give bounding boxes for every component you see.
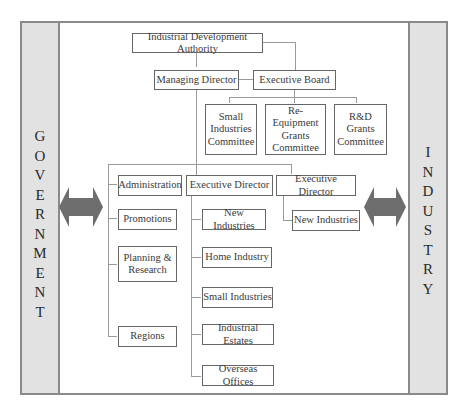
connector (191, 334, 201, 335)
connector (238, 79, 254, 80)
connector (191, 219, 201, 220)
connector (108, 218, 117, 219)
connector (294, 97, 295, 103)
letter: O (22, 147, 58, 167)
connector (191, 376, 201, 377)
connector (108, 264, 117, 265)
regions-box: Regions (118, 326, 177, 347)
new-industries-2-box: New Industries (292, 210, 360, 231)
rd-grants-committee-box: R&D Grants Committee (334, 104, 387, 155)
re-equipment-grants-committee-box: Re-Equipment Grants Committee (265, 104, 326, 155)
letter: M (22, 244, 58, 264)
letter: V (22, 166, 58, 186)
connector (191, 195, 192, 377)
planning-research-box: Planning & Research (118, 246, 177, 282)
letter: G (22, 127, 58, 147)
letter: T (410, 241, 446, 261)
industrial-estates-box: Industrial Estates (202, 324, 274, 345)
industry-label: I N D U S T R Y (410, 143, 446, 299)
connector (108, 164, 109, 336)
new-industries-box: New Industries (202, 209, 266, 230)
government-label: G O V E R N M E N T (22, 127, 58, 322)
connector (108, 184, 117, 185)
administration-box: Administration (118, 175, 182, 196)
letter: R (22, 205, 58, 225)
connector (356, 97, 357, 103)
letter: I (410, 143, 446, 163)
connector (191, 257, 201, 258)
connector (295, 42, 296, 70)
letter: U (410, 202, 446, 222)
industrial-development-authority-box: Industrial Development Authority (132, 33, 263, 53)
connector (229, 97, 230, 103)
small-industries-committee-box: Small Industries Committee (205, 104, 257, 155)
connector (262, 42, 295, 43)
executive-director-2-box: Executive Director (276, 175, 356, 196)
home-industry-box: Home Industry (202, 247, 272, 268)
letter: T (22, 303, 58, 323)
connector (196, 90, 197, 175)
promotions-box: Promotions (118, 209, 177, 230)
connector (229, 97, 356, 98)
connector (108, 336, 117, 337)
small-industries-box: Small Industries (202, 287, 273, 308)
executive-director-1-box: Executive Director (186, 175, 273, 196)
government-panel: G O V E R N M E N T (20, 21, 60, 395)
connector (283, 195, 284, 220)
connector (191, 297, 201, 298)
letter: R (410, 260, 446, 280)
connector (108, 164, 291, 165)
letter: N (22, 225, 58, 245)
letter: N (410, 163, 446, 183)
letter: E (22, 186, 58, 206)
managing-director-box: Managing Director (154, 70, 239, 90)
letter: N (22, 283, 58, 303)
connector (283, 220, 292, 221)
letter: D (410, 182, 446, 202)
overseas-offices-box: Overseas Offices (202, 365, 274, 386)
government-industry-arrow-icon (59, 186, 103, 228)
industry-panel: I N D U S T R Y (408, 21, 448, 395)
executive-board-box: Executive Board (253, 70, 336, 90)
letter: Y (410, 280, 446, 300)
letter: S (410, 221, 446, 241)
industry-government-arrow-icon (364, 186, 406, 228)
letter: E (22, 264, 58, 284)
